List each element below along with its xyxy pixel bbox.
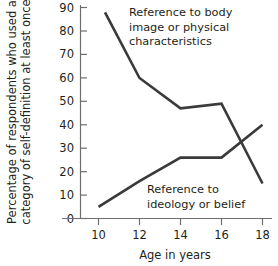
x-tick-label-10: 10 — [91, 228, 106, 242]
x-tick-label-16: 16 — [214, 228, 229, 242]
y-tick-label-70: 70 — [59, 47, 74, 61]
y-tick-label-90: 90 — [59, 1, 74, 15]
annotation-body-image-line2: image or physical — [129, 21, 229, 34]
y-tick-label-30: 30 — [59, 141, 74, 155]
y-tick-label-80: 80 — [59, 24, 74, 38]
annotation-ideology-line1: Reference to — [147, 183, 219, 196]
x-tick-label-12: 12 — [132, 228, 147, 242]
chart-figure: 90 80 70 60 50 40 30 20 10 0 Percentage … — [0, 0, 278, 266]
y-tick-label-60: 60 — [59, 71, 74, 85]
x-tick-label-18: 18 — [255, 228, 270, 242]
y-axis-label: Percentage of respondents who used a cat… — [5, 0, 33, 225]
annotation-body-image-line1: Reference to body — [129, 6, 233, 19]
y-tick-label-50: 50 — [59, 94, 74, 108]
y-axis-label-line2: category of self-definition at least onc… — [19, 0, 33, 225]
y-axis-label-line1: Percentage of respondents who used a — [5, 0, 19, 224]
x-axis-label: Age in years — [139, 248, 211, 262]
y-tick-label-20: 20 — [59, 165, 74, 179]
y-tick-label-40: 40 — [59, 118, 74, 132]
line-chart-canvas: 90 80 70 60 50 40 30 20 10 0 Percentage … — [0, 0, 278, 266]
x-tick-label-14: 14 — [173, 228, 188, 242]
annotation-body-image-line3: characteristics — [129, 35, 212, 48]
annotation-ideology-line2: ideology or belief — [147, 198, 246, 211]
y-tick-label-10: 10 — [59, 188, 74, 202]
